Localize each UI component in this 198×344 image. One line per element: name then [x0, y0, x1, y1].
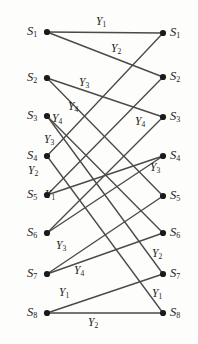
node-label-right-5: S5	[170, 189, 180, 203]
edge-label-Y4: Y4	[68, 101, 78, 114]
network-edge	[47, 78, 163, 117]
network-edge	[47, 32, 163, 77]
node-group	[44, 29, 166, 316]
network-node-left-7	[44, 271, 50, 277]
edge-label-Y4: Y4	[52, 113, 62, 126]
node-label-left-7: S7	[27, 267, 37, 281]
edge-label-Y2: Y2	[152, 248, 162, 261]
network-node-right-3	[160, 114, 166, 120]
node-label-right-4: S4	[170, 149, 180, 163]
node-label-left-1: S1	[27, 25, 37, 39]
bipartite-network-figure: S1S2S3S4S5S6S7S8S1S2S3S4S5S6S7S8Y1Y2Y3Y4…	[0, 0, 198, 344]
network-node-right-2	[160, 74, 166, 80]
edge-label-Y4: Y4	[74, 265, 84, 278]
node-label-left-8: S8	[27, 306, 37, 320]
edge-label-Y2: Y2	[88, 317, 98, 330]
edge-label-Y3: Y3	[150, 162, 160, 175]
network-node-left-2	[44, 75, 50, 81]
network-node-right-1	[160, 30, 166, 36]
node-label-right-6: S6	[170, 226, 180, 240]
edge-label-Y1: Y1	[59, 287, 69, 300]
node-label-left-3: S3	[27, 109, 37, 123]
edge-label-Y1: Y1	[96, 16, 106, 29]
node-label-right-8: S8	[170, 306, 180, 320]
node-label-right-7: S7	[170, 267, 180, 281]
edge-label-Y4: Y4	[135, 116, 145, 129]
edge-label-Y1: Y1	[152, 288, 162, 301]
node-label-left-6: S6	[27, 226, 37, 240]
node-label-left-2: S2	[27, 71, 37, 85]
edge-label-Y2: Y2	[111, 43, 121, 56]
edge-label-Y3: Y3	[79, 77, 89, 90]
network-node-right-8	[160, 310, 166, 316]
network-node-left-8	[44, 310, 50, 316]
edge-group	[47, 32, 163, 313]
network-node-left-1	[44, 29, 50, 35]
edge-label-Y2: Y2	[28, 165, 38, 178]
node-label-right-1: S1	[170, 26, 180, 40]
network-node-right-5	[160, 193, 166, 199]
node-label-left-4: S4	[27, 149, 37, 163]
network-edge	[47, 156, 163, 233]
edge-label-Y3: Y3	[56, 240, 66, 253]
network-node-right-4	[160, 153, 166, 159]
node-label-right-3: S3	[170, 110, 180, 124]
network-node-left-3	[44, 113, 50, 119]
edge-label-Y3: Y3	[44, 134, 54, 147]
network-edge	[47, 32, 163, 33]
network-node-right-6	[160, 230, 166, 236]
network-node-right-7	[160, 271, 166, 277]
node-label-left-5: S5	[27, 188, 37, 202]
network-node-left-4	[44, 153, 50, 159]
node-label-right-2: S2	[170, 70, 180, 84]
edge-label-Y1: Y1	[45, 189, 55, 202]
network-edge	[47, 196, 163, 274]
network-node-left-6	[44, 230, 50, 236]
